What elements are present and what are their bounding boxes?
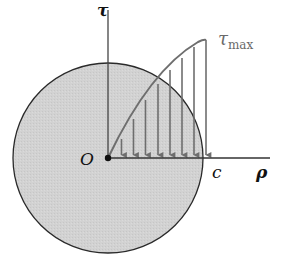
tau-axis-label: τ — [97, 2, 108, 19]
tau-max-label: τmax — [218, 30, 253, 51]
rho-axis-label: ρ — [256, 164, 267, 181]
radius-end-label: c — [212, 164, 222, 181]
tau-max-subscript: max — [228, 38, 253, 52]
origin-point — [105, 155, 111, 161]
shear-stress-diagram: τ τmax O c ρ — [0, 0, 289, 262]
origin-label: O — [80, 151, 94, 168]
tau-max-symbol: τ — [218, 28, 228, 49]
